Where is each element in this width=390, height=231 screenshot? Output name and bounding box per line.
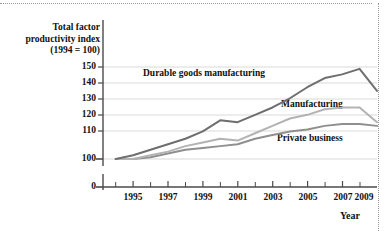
chart-figure: Total factor productivity index (1994 = …	[0, 0, 390, 231]
gridlines	[103, 67, 377, 159]
chart-plot-area	[0, 0, 390, 231]
data-series-group	[116, 69, 377, 159]
series-line-durable-goods	[116, 69, 377, 159]
y-axis	[96, 20, 103, 190]
x-axis	[103, 181, 377, 187]
